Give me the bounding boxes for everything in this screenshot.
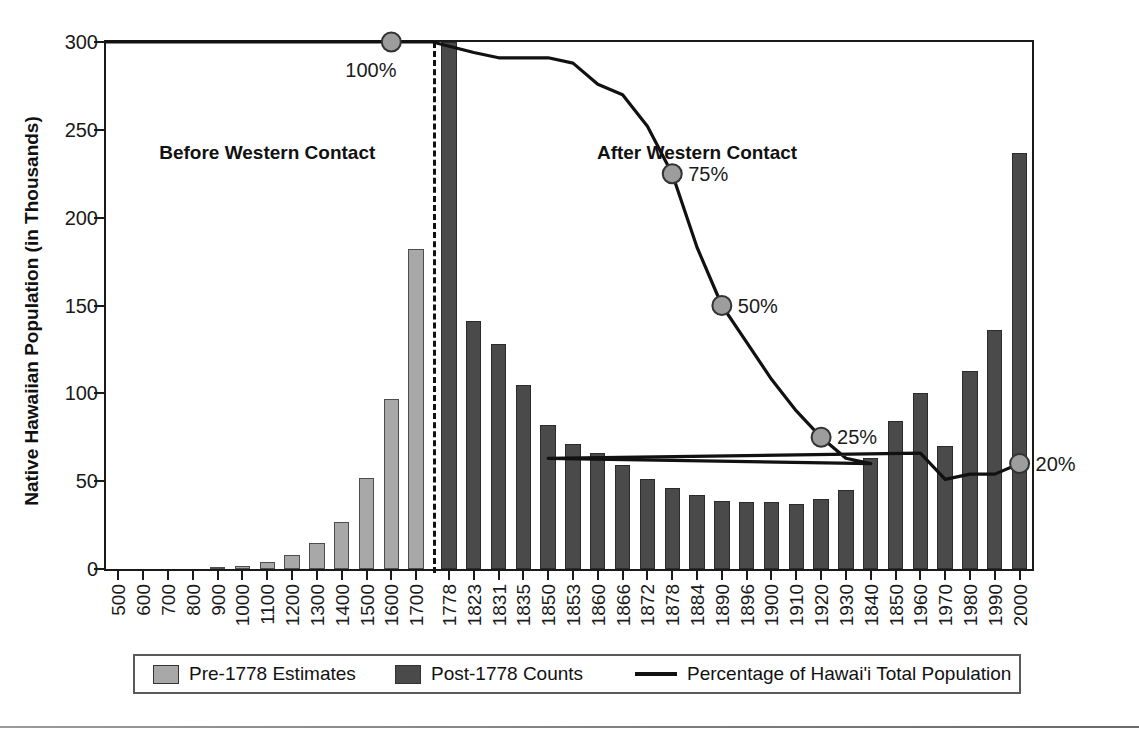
plot-inner: Before Western Contact After Western Con… — [106, 42, 1032, 569]
x-tick-mark-35 — [994, 571, 996, 580]
percentage-polyline — [106, 42, 1020, 479]
x-tick-label-20: 1866 — [613, 584, 635, 626]
x-tick-label-22: 1878 — [662, 584, 684, 626]
x-tick-mark-16 — [522, 571, 524, 580]
page-bottom-rule — [0, 726, 1139, 728]
y-tick-mark-150 — [94, 305, 104, 307]
x-tick-label-29: 1930 — [836, 584, 858, 626]
x-tick-label-19: 1860 — [588, 584, 610, 626]
percentage-label-100pct: 100% — [345, 59, 396, 82]
x-tick-mark-36 — [1019, 571, 1021, 580]
y-tick-label-0: 0 — [28, 558, 98, 581]
x-tick-label-18: 1853 — [563, 584, 585, 626]
percentage-marker-75pct — [663, 164, 682, 183]
x-tick-label-25: 1896 — [737, 584, 759, 626]
y-tick-label-200: 200 — [28, 206, 98, 229]
percentage-marker-100pct — [382, 33, 401, 52]
x-tick-mark-24 — [721, 571, 723, 580]
legend-swatch-pre1778 — [153, 665, 179, 684]
x-tick-label-8: 1300 — [307, 584, 329, 626]
y-tick-mark-0 — [94, 568, 104, 570]
x-tick-label-16: 1835 — [513, 584, 535, 626]
x-tick-label-5: 1000 — [232, 584, 254, 626]
x-tick-mark-2 — [167, 571, 169, 580]
percentage-marker-50pct — [712, 296, 731, 315]
x-tick-label-15: 1831 — [489, 584, 511, 626]
percentage-marker-20pct — [1010, 454, 1029, 473]
chart-legend: Pre-1778 EstimatesPost-1778 CountsPercen… — [133, 654, 1021, 694]
x-tick-label-14: 1823 — [464, 584, 486, 626]
x-tick-mark-25 — [746, 571, 748, 580]
y-tick-label-100: 100 — [28, 382, 98, 405]
x-tick-label-36: 2000 — [1010, 584, 1032, 626]
x-tick-mark-31 — [895, 571, 897, 580]
x-tick-label-28: 1920 — [811, 584, 833, 626]
x-tick-mark-14 — [473, 571, 475, 580]
x-tick-mark-12 — [415, 571, 417, 580]
x-tick-mark-10 — [366, 571, 368, 580]
x-tick-mark-11 — [390, 571, 392, 580]
x-tick-label-10: 1500 — [357, 584, 379, 626]
percentage-label-75pct: 75% — [688, 162, 728, 185]
x-tick-mark-33 — [944, 571, 946, 580]
x-tick-mark-30 — [870, 571, 872, 580]
y-tick-mark-50 — [94, 480, 104, 482]
x-tick-label-21: 1872 — [637, 584, 659, 626]
y-tick-label-250: 250 — [28, 118, 98, 141]
x-tick-label-26: 1900 — [761, 584, 783, 626]
y-tick-mark-300 — [94, 41, 104, 43]
x-tick-label-30: 1840 — [861, 584, 883, 626]
x-tick-mark-19 — [597, 571, 599, 580]
x-tick-mark-6 — [266, 571, 268, 580]
legend-item-2: Percentage of Hawai'i Total Population — [635, 663, 1011, 685]
x-tick-mark-0 — [117, 571, 119, 580]
x-tick-mark-1 — [142, 571, 144, 580]
x-tick-label-12: 1700 — [406, 584, 428, 626]
legend-swatch-post1778 — [395, 665, 421, 684]
x-tick-label-13: 1778 — [439, 584, 461, 626]
x-tick-label-11: 1600 — [381, 584, 403, 626]
y-tick-mark-200 — [94, 217, 104, 219]
x-tick-label-9: 1400 — [332, 584, 354, 626]
x-tick-label-1: 600 — [133, 584, 155, 616]
x-tick-label-0: 500 — [108, 584, 130, 616]
x-tick-mark-27 — [795, 571, 797, 580]
percentage-label-20pct: 20% — [1036, 452, 1076, 475]
x-tick-mark-17 — [547, 571, 549, 580]
percentage-label-25pct: 25% — [837, 426, 877, 449]
x-tick-mark-22 — [671, 571, 673, 580]
x-tick-mark-5 — [241, 571, 243, 580]
x-tick-mark-26 — [770, 571, 772, 580]
x-tick-label-2: 700 — [158, 584, 180, 616]
percentage-marker-25pct — [812, 428, 831, 447]
x-tick-mark-34 — [969, 571, 971, 580]
x-tick-mark-13 — [448, 571, 450, 580]
legend-item-1: Post-1778 Counts — [395, 663, 583, 685]
x-tick-mark-21 — [646, 571, 648, 580]
x-tick-mark-28 — [820, 571, 822, 580]
legend-item-0: Pre-1778 Estimates — [153, 663, 356, 685]
x-tick-label-7: 1200 — [282, 584, 304, 626]
x-tick-mark-23 — [696, 571, 698, 580]
x-tick-label-34: 1980 — [960, 584, 982, 626]
x-tick-label-24: 1890 — [712, 584, 734, 626]
legend-label-2: Percentage of Hawai'i Total Population — [687, 663, 1011, 685]
x-tick-mark-15 — [498, 571, 500, 580]
x-tick-label-6: 1100 — [257, 584, 279, 625]
x-tick-label-27: 1910 — [786, 584, 808, 626]
x-tick-mark-4 — [217, 571, 219, 580]
x-tick-label-31: 1850 — [886, 584, 908, 626]
x-tick-label-35: 1990 — [985, 584, 1007, 626]
x-tick-label-23: 1884 — [687, 584, 709, 626]
y-tick-label-150: 150 — [28, 294, 98, 317]
percentage-markers — [382, 33, 1029, 474]
plot-area: Before Western Contact After Western Con… — [104, 40, 1034, 571]
x-tick-label-4: 900 — [208, 584, 230, 616]
y-tick-label-300: 300 — [28, 31, 98, 54]
x-tick-label-32: 1960 — [910, 584, 932, 626]
chart-page: Before Western Contact After Western Con… — [0, 0, 1139, 742]
legend-label-0: Pre-1778 Estimates — [189, 663, 356, 685]
y-tick-mark-250 — [94, 129, 104, 131]
x-tick-mark-8 — [316, 571, 318, 580]
x-tick-label-33: 1970 — [935, 584, 957, 626]
